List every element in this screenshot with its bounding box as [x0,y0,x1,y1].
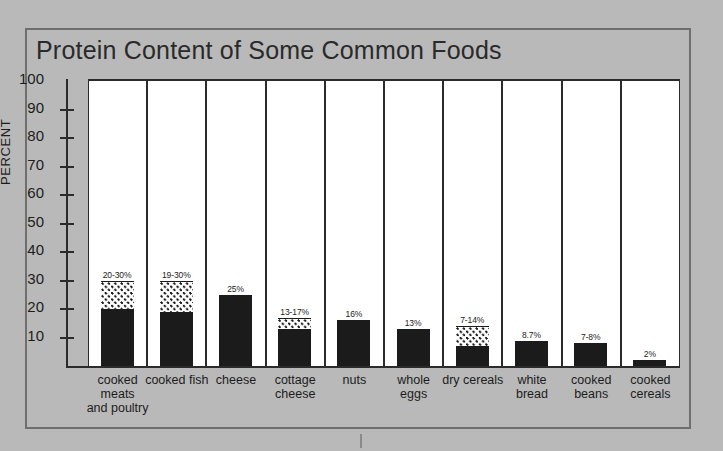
bar-solid-segment [515,341,548,366]
y-tick-mark [60,251,74,253]
bar-group: 19-30% [160,81,193,366]
bar-group: 2% [633,81,666,366]
bar-column[interactable]: 25% [206,81,265,366]
bar-value-label: 13-17% [278,307,311,317]
y-tick-label: 100 [4,70,44,87]
bar-range-segment [278,318,311,329]
y-tick-label: 50 [4,213,44,230]
bar-column[interactable]: 2% [621,81,680,366]
bar-value-label: 20-30% [101,270,134,280]
y-tick-label: 20 [4,298,44,315]
bar-range-segment [160,281,193,312]
bar-group: 25% [219,81,252,366]
bar-group: 7-8% [574,81,607,366]
bar-column[interactable]: 19-30% [147,81,206,366]
bar-column[interactable]: 8.7% [502,81,561,366]
plot-area: 20-30%19-30%25%13-17%16%13%7-14%8.7%7-8%… [88,81,680,366]
y-tick-mark [60,223,74,225]
bar-column[interactable]: 13% [384,81,443,366]
bar-value-label: 8.7% [515,330,548,340]
bar-group: 13-17% [278,81,311,366]
bar-column[interactable]: 7-14% [443,81,502,366]
y-tick-label: 10 [4,327,44,344]
bar-group: 13% [397,81,430,366]
y-tick-mark [60,194,74,196]
bar-group: 7-14% [456,81,489,366]
y-tick-label: 60 [4,184,44,201]
bar-solid-segment [101,309,134,366]
bar-solid-segment [337,320,370,366]
y-tick-mark [60,337,74,339]
bar-column[interactable]: 20-30% [88,81,147,366]
bar-solid-segment [219,295,252,366]
bar-range-segment [456,326,489,346]
bar-group: 16% [337,81,370,366]
y-tick-label: 70 [4,156,44,173]
bar-solid-segment [397,329,430,366]
figure-container: Protein Content of Some Common Foods PER… [0,0,723,451]
y-tick-mark [60,166,74,168]
y-tick-label: 40 [4,241,44,258]
bar-value-label: 16% [337,309,370,319]
y-tick-mark [60,308,74,310]
bar-column[interactable]: 16% [325,81,384,366]
y-tick-mark [60,109,74,111]
bar-range-segment [101,281,134,310]
bar-column[interactable]: 13-17% [266,81,325,366]
bar-value-label: 7-14% [456,315,489,325]
y-tick-mark [60,137,74,139]
bar-value-label: 2% [633,349,666,359]
y-tick-label: 30 [4,270,44,287]
page-title: Protein Content of Some Common Foods [36,36,502,65]
bar-solid-segment [633,360,666,366]
y-tick-mark [60,280,74,282]
bar-solid-segment [456,346,489,366]
bar-column[interactable]: 7-8% [562,81,621,366]
y-tick-label: 90 [4,99,44,116]
y-tick-label: 80 [4,127,44,144]
bar-group: 20-30% [101,81,134,366]
bar-value-label: 13% [397,318,430,328]
bar-solid-segment [278,329,311,366]
bar-group: 8.7% [515,81,548,366]
page-center-mark [360,434,362,448]
x-axis-baseline [66,366,680,368]
bar-value-label: 7-8% [574,332,607,342]
bar-value-label: 19-30% [160,270,193,280]
x-axis-category-label: cooked cereals [607,373,694,401]
bar-value-label: 25% [219,284,252,294]
bar-solid-segment [160,312,193,366]
bar-solid-segment [574,343,607,366]
